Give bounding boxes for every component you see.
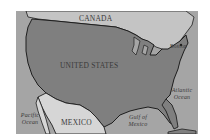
label-mexico: MEXICO <box>61 119 92 127</box>
label-united-states: UNITED STATES <box>60 62 118 70</box>
label-canada: CANADA <box>79 15 112 23</box>
label-gulf-of-mexico: Gulf of Mexico <box>123 114 153 128</box>
label-atlantic-ocean: Atlantic Ocean <box>168 87 196 101</box>
label-boston: Boston <box>170 44 187 50</box>
map-frame: CANADA UNITED STATES MEXICO Pacific Ocea… <box>16 11 198 134</box>
label-pacific-ocean: Pacific Ocean <box>17 112 43 126</box>
map-graphic <box>16 11 198 134</box>
